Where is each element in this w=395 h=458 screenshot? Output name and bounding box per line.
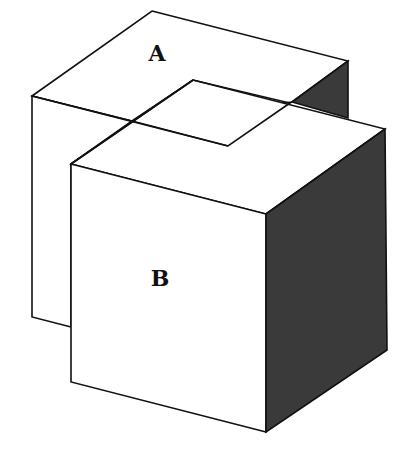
diagram-canvas: A B bbox=[0, 0, 395, 458]
cubes-illustration bbox=[0, 0, 395, 458]
label-a: A bbox=[148, 42, 165, 64]
label-b: B bbox=[151, 267, 170, 289]
